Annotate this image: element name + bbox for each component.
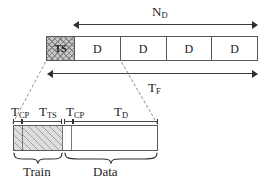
- tts-tick-bar: [22, 121, 62, 122]
- nd-arrow-shaft: [78, 24, 253, 25]
- frame-cell-ts[interactable]: TS: [47, 37, 75, 60]
- td-tick-right: [157, 119, 158, 124]
- detail-segment-data[interactable]: [72, 126, 157, 150]
- frame-cell-ts-label: TS: [54, 44, 66, 54]
- detail-segment-cp-data[interactable]: [63, 126, 72, 150]
- detail-segment-ts[interactable]: [23, 126, 63, 150]
- tcp1-label: TCP: [11, 103, 29, 120]
- frame-cell-d-2-label: D: [139, 43, 148, 55]
- td-tick-bar: [73, 121, 158, 122]
- tcp2-label-base: T: [66, 104, 74, 119]
- detail-bar: [13, 125, 158, 151]
- data-brace-glyph: [64, 152, 158, 164]
- nd-label-base: N: [152, 4, 161, 19]
- data-brace-label: Data: [93, 165, 118, 178]
- tcp1-label-base: T: [11, 104, 19, 119]
- tf-span-arrow: [47, 69, 258, 78]
- tf-arrow-shaft: [52, 73, 253, 74]
- nd-label: ND: [152, 3, 167, 20]
- tf-label-base: T: [148, 80, 156, 95]
- nd-span-arrow: [73, 20, 258, 29]
- frame-cell-d-3[interactable]: D: [167, 37, 213, 60]
- tf-label-sub: F: [156, 86, 161, 96]
- train-brace: [13, 152, 63, 164]
- frame-cell-d-4-label: D: [230, 43, 239, 55]
- tf-label: TF: [148, 79, 161, 96]
- td-span-tick: [73, 119, 158, 124]
- tf-arrowhead-right: [252, 70, 258, 78]
- frame-cell-d-4[interactable]: D: [212, 37, 257, 60]
- frame-cell-d-3-label: D: [185, 43, 194, 55]
- train-brace-label: Train: [23, 165, 51, 178]
- tts-span-tick: [22, 119, 62, 124]
- tcp1-span-tick: [13, 119, 22, 124]
- frame-cell-d-1[interactable]: D: [75, 37, 121, 60]
- frame-cell-d-1-label: D: [93, 43, 102, 55]
- data-brace: [64, 152, 158, 164]
- detail-segment-cp-train[interactable]: [14, 126, 23, 150]
- train-brace-glyph: [13, 152, 63, 164]
- nd-label-sub: D: [161, 10, 167, 20]
- tts-label-base: T: [39, 104, 47, 119]
- figure-root: ND TS D D D D TF TCP TTS: [0, 0, 273, 188]
- nd-arrowhead-right: [252, 21, 258, 29]
- frame-bar: TS D D D D: [46, 36, 258, 61]
- frame-cell-d-2[interactable]: D: [121, 37, 167, 60]
- td-label-base: T: [114, 104, 122, 119]
- tts-tick-right: [61, 119, 62, 124]
- td-label: TD: [114, 103, 128, 120]
- tts-label: TTS: [39, 103, 57, 120]
- tcp2-span-tick: [64, 119, 73, 124]
- tcp2-label: TCP: [66, 103, 84, 120]
